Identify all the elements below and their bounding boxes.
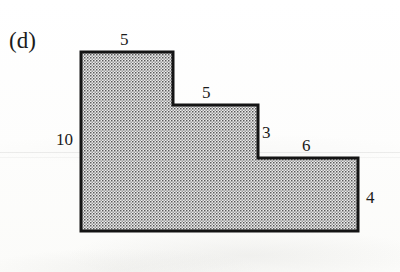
- figure-page: (d) 5 5 10 3 6 4: [0, 0, 400, 272]
- dimension-label-left-height: 10: [56, 131, 73, 148]
- dimension-label-top-left-width: 5: [120, 31, 129, 48]
- dimension-label-middle-height: 3: [262, 124, 271, 141]
- dimension-label-lower-right-width: 6: [302, 137, 311, 154]
- dimension-label-middle-width: 5: [202, 84, 211, 101]
- part-label: (d): [9, 29, 36, 52]
- dimension-label-right-height: 4: [366, 189, 375, 206]
- polygon-fill: [81, 52, 358, 231]
